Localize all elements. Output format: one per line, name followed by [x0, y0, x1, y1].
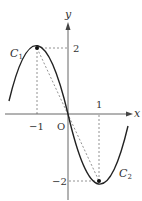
coordinate-plane: y x O 2 −2 −1 1 C1 C2 — [0, 0, 142, 201]
y-axis-arrow-icon — [66, 22, 71, 30]
c1-vertex-point — [35, 46, 39, 50]
curve-c2-label: C2 — [119, 167, 132, 181]
x-axis-arrow-icon — [126, 112, 133, 117]
graph-figure: y x O 2 −2 −1 1 C1 C2 — [0, 0, 142, 201]
tick-x-neg1: −1 — [29, 121, 44, 132]
x-axis-label: x — [134, 107, 141, 120]
curve-c1-label: C1 — [10, 47, 23, 61]
tick-y-neg2: −2 — [52, 176, 67, 187]
c2-vertex-point — [97, 179, 101, 183]
origin-label: O — [57, 121, 65, 132]
y-axis-label: y — [64, 8, 72, 21]
tick-x-1: 1 — [96, 99, 102, 110]
tick-y-2: 2 — [73, 43, 79, 54]
